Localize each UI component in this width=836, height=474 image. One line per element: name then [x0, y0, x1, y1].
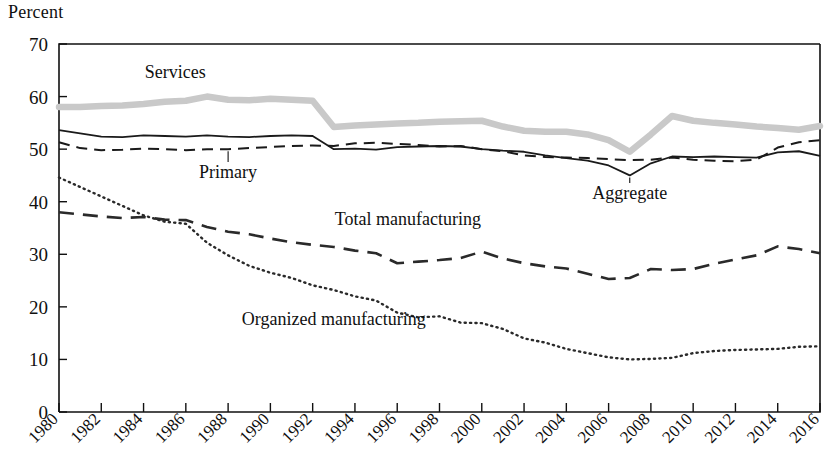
line-chart: 010203040506070 198019821984198619881990… [0, 0, 836, 474]
series-label-primary: Primary [199, 162, 257, 182]
series-label-services: Services [145, 62, 206, 82]
series-label-aggregate: Aggregate [592, 183, 667, 203]
series-label-organized-manufacturing: Organized manufacturing [242, 309, 426, 329]
x-axis-tick-label: 2010 [659, 409, 696, 446]
x-axis-tick-label: 1994 [320, 409, 358, 447]
x-axis-tick-label: 2008 [616, 409, 653, 446]
y-axis-tick-label: 70 [29, 34, 48, 55]
y-axis-tick-label: 30 [29, 244, 48, 265]
y-axis-tick-label: 20 [29, 297, 48, 318]
x-axis-tick-label: 1988 [193, 409, 230, 446]
x-axis-tick-label: 1984 [109, 409, 147, 447]
x-axis-tick-label: 1986 [151, 409, 188, 446]
x-axis-tick-label: 2004 [532, 409, 570, 447]
chart-page: Percent 010203040506070 1980198219841986… [0, 0, 836, 474]
y-axis-tick-label: 40 [29, 192, 48, 213]
y-axis-tick-label: 60 [29, 87, 48, 108]
x-axis-tick-label: 1998 [405, 409, 442, 446]
series-line-organized-manufacturing [59, 178, 820, 360]
x-axis-ticks: 1980198219841986198819901992199419961998… [24, 403, 822, 447]
series-label-total-manufacturing: Total manufacturing [335, 209, 481, 229]
x-axis-tick-label: 1996 [363, 409, 400, 446]
x-axis-tick-label: 1990 [236, 409, 273, 446]
series-line-services [59, 97, 820, 152]
x-axis-tick-label: 1992 [278, 409, 315, 446]
y-axis-ticks: 010203040506070 [29, 34, 67, 423]
y-axis-tick-label: 50 [29, 139, 48, 160]
x-axis-tick-label: 2000 [447, 409, 484, 446]
x-axis-tick-label: 2006 [574, 409, 611, 446]
x-axis-tick-label: 2016 [785, 409, 822, 446]
x-axis-tick-label: 2002 [489, 409, 526, 446]
series-line-aggregate [59, 130, 820, 175]
x-axis-tick-label: 1982 [67, 409, 104, 446]
x-axis-tick-label: 2014 [743, 409, 781, 447]
x-axis-tick-label: 2012 [701, 409, 738, 446]
y-axis-tick-label: 10 [29, 349, 48, 370]
series-line-primary [59, 140, 820, 161]
x-axis-tick-label: 1980 [24, 409, 61, 446]
